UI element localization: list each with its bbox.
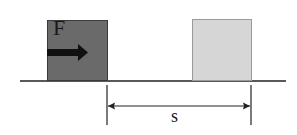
arrowhead-left-icon bbox=[108, 103, 115, 110]
force-label: F bbox=[53, 17, 65, 39]
displacement-label: s bbox=[171, 107, 178, 125]
displacement-arrow bbox=[108, 103, 250, 110]
diagram-svg bbox=[0, 0, 297, 135]
final-block bbox=[193, 20, 252, 81]
diagram-canvas: F s bbox=[0, 0, 297, 135]
arrowhead-right-icon bbox=[243, 103, 250, 110]
